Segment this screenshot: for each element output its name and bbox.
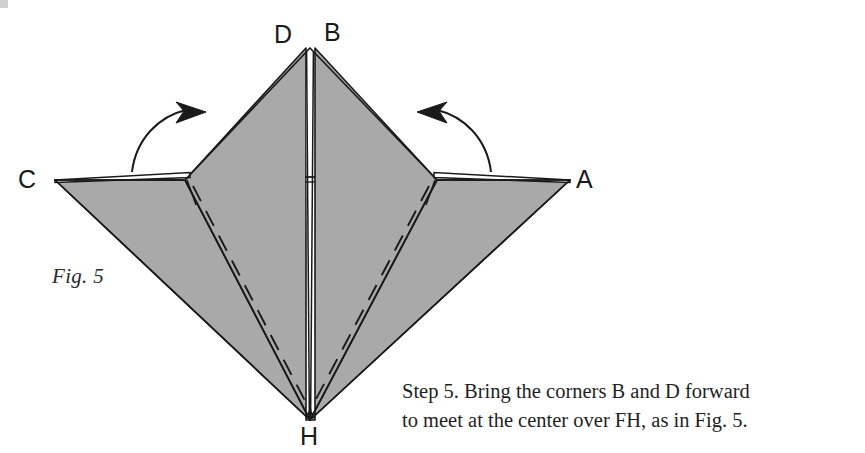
vertex-label-c: C — [18, 167, 36, 192]
vertex-label-b: B — [324, 20, 341, 45]
figure-number-label: Fig. 5 — [52, 264, 104, 289]
step-instruction-line-2: to meet at the center over FH, as in Fig… — [402, 406, 854, 435]
vertex-label-d: D — [274, 22, 292, 47]
vertex-label-h: H — [300, 424, 318, 449]
step-instruction-line-1: Step 5. Bring the corners B and D forwar… — [402, 377, 854, 406]
origami-figure-panel: C A D B H Fig. 5 Step 5. Bring the corne… — [0, 0, 865, 453]
step-instruction-text: Step 5. Bring the corners B and D forwar… — [402, 377, 854, 435]
fold-left-flap-arrow — [132, 102, 206, 172]
fold-right-flap-arrow — [417, 102, 491, 172]
vertex-label-a: A — [576, 167, 593, 192]
